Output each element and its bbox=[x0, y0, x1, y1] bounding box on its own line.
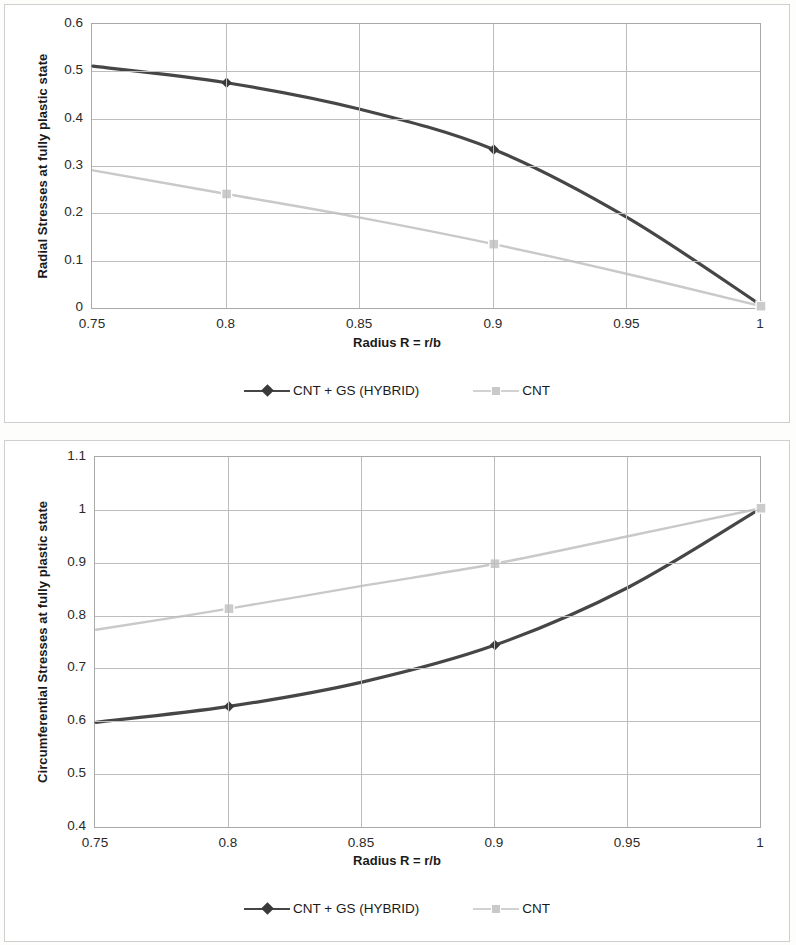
square-marker-icon bbox=[491, 904, 501, 914]
circumferential-stress-y-axis-title: Circumferential Stresses at fully plasti… bbox=[35, 501, 50, 783]
y-axis-tick-label: 0.6 bbox=[5, 15, 83, 30]
circumferential-stress-x-axis-title: Radius R = r/b bbox=[5, 853, 789, 868]
gridline-vertical bbox=[493, 24, 494, 308]
diamond-marker-icon bbox=[224, 701, 234, 711]
gridline-vertical bbox=[627, 457, 628, 827]
square-marker-icon bbox=[756, 301, 766, 311]
x-axis-tick-label: 0.95 bbox=[586, 316, 666, 331]
legend-entry-cnt: CNT bbox=[473, 383, 550, 398]
y-axis-tick-label: 0.8 bbox=[5, 607, 86, 622]
gridline-horizontal bbox=[95, 616, 760, 617]
gridline-horizontal bbox=[95, 721, 760, 722]
legend-key-hybrid bbox=[244, 384, 290, 398]
gridline-vertical bbox=[359, 24, 360, 308]
y-axis-tick-label: 0.5 bbox=[5, 62, 83, 77]
radial-stress-series-layer bbox=[93, 25, 761, 309]
y-axis-tick-label: 0.2 bbox=[5, 204, 83, 219]
x-axis-tick-label: 0.8 bbox=[186, 316, 266, 331]
radial-stress-plot-area bbox=[91, 23, 761, 309]
legend-label-cnt: CNT bbox=[521, 383, 550, 398]
y-axis-tick-label: 0.5 bbox=[5, 765, 86, 780]
radial-stress-chart-panel: Radial Stresses at fully plastic state R… bbox=[4, 4, 790, 423]
gridline-horizontal bbox=[92, 119, 760, 120]
square-marker-icon bbox=[491, 386, 501, 396]
circumferential-stress-plot-area bbox=[94, 456, 761, 828]
x-axis-tick-label: 0.75 bbox=[52, 316, 132, 331]
diamond-marker-icon bbox=[261, 902, 274, 915]
radial-stress-legend: CNT + GS (HYBRID) CNT bbox=[5, 383, 789, 398]
gridline-horizontal bbox=[92, 261, 760, 262]
legend-entry-cnt: CNT bbox=[473, 901, 550, 916]
gridline-horizontal bbox=[92, 166, 760, 167]
y-axis-tick-label: 0 bbox=[5, 299, 83, 314]
diamond-marker-icon bbox=[490, 640, 500, 650]
y-axis-tick-label: 1 bbox=[5, 501, 86, 516]
radial-stress-x-axis-title: Radius R = r/b bbox=[5, 335, 789, 350]
gridline-vertical bbox=[626, 24, 627, 308]
circumferential-stress-legend: CNT + GS (HYBRID) CNT bbox=[5, 901, 789, 916]
x-axis-tick-label: 0.85 bbox=[321, 835, 401, 850]
gridline-horizontal bbox=[95, 510, 760, 511]
gridline-vertical bbox=[494, 457, 495, 827]
legend-key-cnt bbox=[473, 384, 519, 398]
legend-entry-hybrid: CNT + GS (HYBRID) bbox=[244, 383, 419, 398]
square-marker-icon bbox=[756, 503, 766, 513]
x-axis-tick-label: 1 bbox=[720, 316, 796, 331]
y-axis-tick-label: 0.3 bbox=[5, 157, 83, 172]
circumferential-stress-chart-panel: Circumferential Stresses at fully plasti… bbox=[4, 440, 790, 942]
diamond-marker-icon bbox=[261, 384, 274, 397]
figure-page: Radial Stresses at fully plastic state R… bbox=[0, 0, 796, 945]
legend-label-cnt: CNT bbox=[521, 901, 550, 916]
y-axis-tick-label: 0.9 bbox=[5, 554, 86, 569]
gridline-horizontal bbox=[92, 213, 760, 214]
legend-label-hybrid: CNT + GS (HYBRID) bbox=[292, 901, 419, 916]
x-axis-tick-label: 0.75 bbox=[55, 835, 135, 850]
x-axis-tick-label: 0.85 bbox=[319, 316, 399, 331]
x-axis-tick-label: 0.9 bbox=[453, 316, 533, 331]
gridline-horizontal bbox=[95, 563, 760, 564]
gridline-horizontal bbox=[95, 774, 760, 775]
circumferential-stress-series-layer bbox=[96, 458, 761, 828]
legend-label-hybrid: CNT + GS (HYBRID) bbox=[292, 383, 419, 398]
x-axis-tick-label: 0.9 bbox=[454, 835, 534, 850]
y-axis-tick-label: 0.6 bbox=[5, 712, 86, 727]
gridline-vertical bbox=[226, 24, 227, 308]
x-axis-tick-label: 0.95 bbox=[587, 835, 667, 850]
gridline-vertical bbox=[228, 457, 229, 827]
square-marker-icon bbox=[224, 604, 234, 614]
y-axis-tick-label: 1.1 bbox=[5, 448, 86, 463]
gridline-horizontal bbox=[95, 668, 760, 669]
y-axis-tick-label: 0.1 bbox=[5, 252, 83, 267]
gridline-horizontal bbox=[92, 71, 760, 72]
y-axis-tick-label: 0.4 bbox=[5, 110, 83, 125]
legend-key-cnt bbox=[473, 902, 519, 916]
y-axis-tick-label: 0.7 bbox=[5, 659, 86, 674]
series-line-hybrid bbox=[93, 66, 761, 305]
legend-entry-hybrid: CNT + GS (HYBRID) bbox=[244, 901, 419, 916]
y-axis-tick-label: 0.4 bbox=[5, 818, 86, 833]
legend-key-hybrid bbox=[244, 902, 290, 916]
x-axis-tick-label: 1 bbox=[720, 835, 796, 850]
x-axis-tick-label: 0.8 bbox=[188, 835, 268, 850]
gridline-vertical bbox=[361, 457, 362, 827]
